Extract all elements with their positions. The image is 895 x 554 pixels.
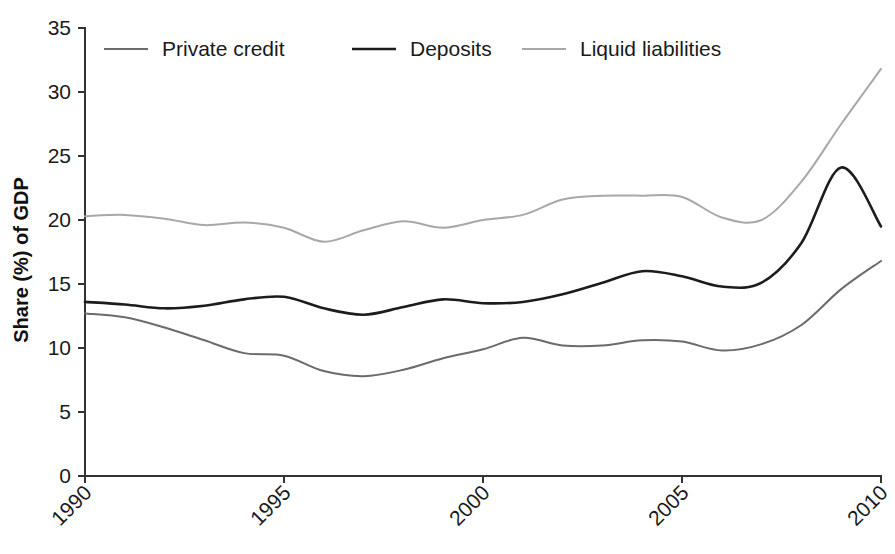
- axis-lines: [85, 28, 881, 476]
- chart-legend: Private creditDepositsLiquid liabilities: [104, 37, 721, 60]
- legend-label-liquid-liabilities: Liquid liabilities: [580, 37, 721, 60]
- x-tick-label: 2005: [644, 481, 693, 530]
- y-tick-label: 35: [48, 16, 71, 39]
- chart-figure: 05101520253035 19901995200020052010 Shar…: [0, 0, 895, 554]
- x-tick-label: 2000: [445, 481, 494, 530]
- axis-group: 05101520253035 19901995200020052010 Shar…: [10, 16, 892, 530]
- x-axis-ticks: 19901995200020052010: [47, 476, 892, 530]
- y-tick-label: 20: [48, 208, 71, 231]
- y-tick-label: 10: [48, 336, 71, 359]
- y-tick-label: 25: [48, 144, 71, 167]
- y-tick-label: 30: [48, 80, 71, 103]
- y-axis-ticks: 05101520253035: [48, 16, 85, 487]
- data-series-group: [85, 69, 881, 376]
- line-chart-canvas: 05101520253035 19901995200020052010 Shar…: [0, 0, 895, 554]
- series-line-liquid-liabilities: [85, 69, 881, 242]
- x-tick-label: 1990: [47, 481, 96, 530]
- y-tick-label: 15: [48, 272, 71, 295]
- y-axis-title: Share (%) of GDP: [10, 177, 32, 343]
- y-tick-label: 5: [59, 400, 71, 423]
- x-tick-label: 2010: [843, 481, 892, 530]
- legend-label-deposits: Deposits: [410, 37, 492, 60]
- x-tick-label: 1995: [246, 481, 295, 530]
- series-line-private-credit: [85, 261, 881, 376]
- series-line-deposits: [85, 167, 881, 314]
- legend-label-private-credit: Private credit: [162, 37, 285, 60]
- y-tick-label: 0: [59, 464, 71, 487]
